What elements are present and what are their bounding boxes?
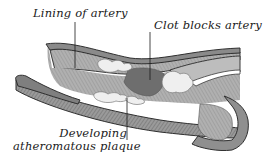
label-lining-of-artery: Lining of artery xyxy=(33,7,128,20)
label-plaque-line2: atheromatous plaque xyxy=(13,140,127,153)
label-developing-plaque: Developing atheromatous plaque xyxy=(13,127,127,153)
artery-diagram: Lining of artery Clot blocks artery Deve… xyxy=(0,0,272,164)
right-lumen xyxy=(198,104,232,140)
label-clot-blocks-artery: Clot blocks artery xyxy=(154,19,262,32)
